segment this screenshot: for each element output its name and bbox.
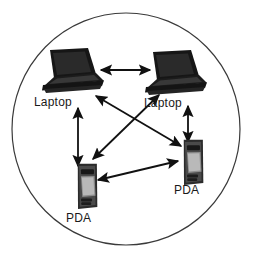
network-topology-diagram — [0, 0, 257, 266]
node-label-laptop-top-left: Laptop — [34, 96, 72, 108]
network-boundary-ellipse — [12, 13, 240, 245]
node-label-pda-bottom-right: PDA — [174, 184, 199, 196]
node-label-laptop-top-right: Laptop — [144, 97, 182, 109]
node-label-pda-bottom-left: PDA — [66, 212, 91, 224]
